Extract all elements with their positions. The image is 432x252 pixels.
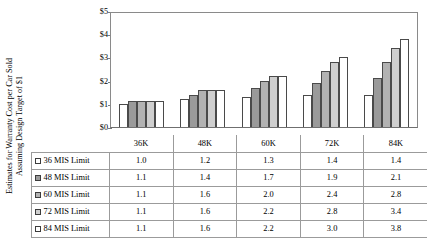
y-axis-title: Estimates for Warranty Cost per Car Sold… (0, 0, 30, 252)
bar (119, 104, 128, 127)
table-cell: 2.1 (364, 169, 428, 186)
legend-swatch-icon (35, 175, 41, 181)
table-corner-cell (32, 135, 110, 152)
bar-group (111, 13, 172, 127)
table-cell: 2.2 (237, 220, 301, 237)
bar-chart: $0$1$2$3$4$5 (86, 6, 426, 134)
table-cell: 1.1 (110, 203, 174, 220)
bar (242, 97, 251, 127)
table-cell: 1.1 (110, 186, 174, 203)
y-axis-title-line2: Assuming Design Target of $1 (15, 76, 25, 176)
bar (373, 78, 382, 127)
table-cell: 3.8 (364, 220, 428, 237)
table-column-header: 72K (300, 135, 364, 152)
table-cell: 1.3 (237, 152, 301, 169)
bar-groups (111, 13, 417, 127)
table-cell: 3.0 (300, 220, 364, 237)
legend-label-text: 60 MIS Limit (44, 190, 90, 199)
table-column-header: 48K (173, 135, 237, 152)
table-cell: 2.8 (364, 186, 428, 203)
table-column-header: 84K (364, 135, 428, 152)
bar (278, 76, 287, 127)
y-tick-label: $0 (100, 124, 108, 132)
bar (128, 101, 137, 127)
bar-group (233, 13, 294, 127)
table-header-row: 36K48K60K72K84K (32, 135, 428, 152)
bar (312, 83, 321, 127)
table-cell: 3.4 (364, 203, 428, 220)
table-cell: 1.9 (300, 169, 364, 186)
bar (260, 81, 269, 127)
table-column-header: 60K (237, 135, 301, 152)
table-cell: 1.6 (173, 203, 237, 220)
y-axis-labels: $0$1$2$3$4$5 (86, 6, 108, 134)
table-cell: 2.8 (300, 203, 364, 220)
bar (339, 57, 348, 127)
legend-row-label: 72 MIS Limit (32, 203, 110, 220)
bar-group (356, 13, 417, 127)
table-cell: 2.2 (237, 203, 301, 220)
bar (400, 39, 409, 127)
table-row: 36 MIS Limit1.01.21.31.41.4 (32, 152, 428, 169)
table-cell: 1.1 (110, 220, 174, 237)
bar (330, 62, 339, 127)
legend-label-text: 36 MIS Limit (44, 156, 90, 165)
y-tick-label: $3 (100, 54, 108, 62)
bar (251, 88, 260, 127)
legend-row-label: 60 MIS Limit (32, 186, 110, 203)
legend-row-label: 84 MIS Limit (32, 220, 110, 237)
y-tick-mark (108, 128, 112, 129)
bar (146, 101, 155, 127)
table-cell: 1.0 (110, 152, 174, 169)
legend-swatch-icon (35, 209, 41, 215)
bar (207, 90, 216, 127)
bar-group (295, 13, 356, 127)
table-cell: 1.7 (237, 169, 301, 186)
bar (391, 48, 400, 127)
table-cell: 1.4 (364, 152, 428, 169)
y-tick-label: $1 (100, 101, 108, 109)
bar (198, 90, 207, 127)
legend-row-label: 48 MIS Limit (32, 169, 110, 186)
table-cell: 1.1 (110, 169, 174, 186)
table-cell: 2.4 (300, 186, 364, 203)
table-column-header: 36K (110, 135, 174, 152)
table-cell: 1.6 (173, 186, 237, 203)
table-body: 36 MIS Limit1.01.21.31.41.448 MIS Limit1… (32, 152, 428, 237)
y-tick-label: $2 (100, 78, 108, 86)
bar (321, 71, 330, 127)
bar (303, 95, 312, 127)
table-cell: 1.6 (173, 220, 237, 237)
legend-swatch-icon (35, 158, 41, 164)
table-row: 48 MIS Limit1.11.41.71.92.1 (32, 169, 428, 186)
bar-group (172, 13, 233, 127)
table-cell: 1.4 (173, 169, 237, 186)
legend-swatch-icon (35, 226, 41, 232)
bar (382, 62, 391, 127)
bar (180, 99, 189, 127)
legend-label-text: 72 MIS Limit (44, 207, 90, 216)
legend-label-text: 84 MIS Limit (44, 224, 90, 233)
bar (137, 101, 146, 127)
bar (189, 95, 198, 127)
bar (269, 76, 278, 127)
table-row: 72 MIS Limit1.11.62.22.83.4 (32, 203, 428, 220)
data-table: 36K48K60K72K84K 36 MIS Limit1.01.21.31.4… (31, 135, 427, 238)
data-table-legend: 36K48K60K72K84K 36 MIS Limit1.01.21.31.4… (31, 135, 427, 247)
table-row: 84 MIS Limit1.11.62.23.03.8 (32, 220, 428, 237)
y-axis-title-line1: Estimates for Warranty Cost per Car Sold (5, 58, 15, 194)
table-cell: 1.2 (173, 152, 237, 169)
y-tick-label: $4 (100, 31, 108, 39)
table-cell: 2.0 (237, 186, 301, 203)
plot-area (110, 12, 418, 128)
y-tick-label: $5 (100, 8, 108, 16)
table-row: 60 MIS Limit1.11.62.02.42.8 (32, 186, 428, 203)
legend-row-label: 36 MIS Limit (32, 152, 110, 169)
bar (364, 95, 373, 127)
table-cell: 1.4 (300, 152, 364, 169)
legend-swatch-icon (35, 192, 41, 198)
bar (155, 101, 164, 127)
legend-label-text: 48 MIS Limit (44, 173, 90, 182)
bar (216, 90, 225, 127)
